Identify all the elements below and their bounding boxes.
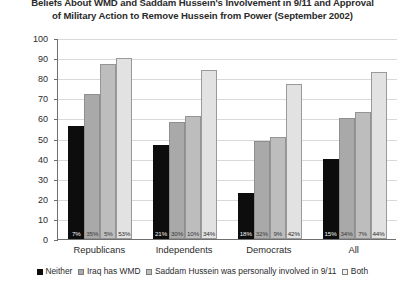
bar-republicans-series-3: 53% (116, 58, 132, 239)
bar-all-series-3: 44% (371, 72, 387, 239)
bar-value-label: 5% (101, 230, 115, 237)
y-axis-tick-label: 40 (0, 156, 48, 165)
bar-value-label: 35% (85, 230, 99, 237)
legend-swatch-icon (342, 269, 348, 275)
bar-republicans-series-1: 35% (84, 94, 100, 239)
y-axis-tick-label: 50 (0, 136, 48, 145)
bar-value-label: 18% (239, 230, 253, 237)
bar-independents-series-1: 30% (169, 122, 185, 239)
bar-independents-series-2: 10% (185, 116, 201, 239)
bar-value-label: 42% (287, 230, 301, 237)
legend-label: Saddam Hussein was personally involved i… (155, 266, 336, 276)
y-axis-tick (54, 200, 58, 201)
x-axis-category-label-democrats: Democrats (227, 244, 312, 255)
y-axis-tick-label: 10 (0, 216, 48, 225)
y-axis-tick (54, 59, 58, 60)
grid-line (58, 39, 397, 40)
chart-title: Beliefs About WMD and Saddam Hussein's I… (0, 0, 405, 22)
bar-value-label: 15% (324, 230, 338, 237)
legend-swatch-icon (146, 269, 152, 275)
bar-all-series-0: 15% (323, 159, 339, 239)
y-axis-tick (54, 39, 58, 40)
chart-title-line-1: Beliefs About WMD and Saddam Hussein's I… (0, 0, 405, 9)
bar-value-label: 30% (170, 230, 184, 237)
bar-republicans-series-0: 7% (68, 126, 84, 239)
bar-value-label: 10% (186, 230, 200, 237)
y-axis-tick (54, 220, 58, 221)
chart-title-line-2: of Military Action to Remove Hussein fro… (0, 9, 405, 22)
y-axis-tick (54, 99, 58, 100)
legend-label: Neither (45, 266, 72, 276)
chart-legend: NeitherIraq has WMDSaddam Hussein was pe… (0, 266, 405, 277)
legend-item-1[interactable]: Iraq has WMD (78, 266, 140, 277)
bar-value-label: 34% (340, 230, 354, 237)
grid-line (58, 59, 397, 60)
y-axis-tick (54, 79, 58, 80)
y-axis-tick-label: 70 (0, 95, 48, 104)
y-axis-tick-label: 60 (0, 115, 48, 124)
bar-democrats-series-3: 42% (286, 84, 302, 239)
legend-swatch-icon (37, 269, 43, 275)
bar-democrats-series-0: 18% (238, 193, 254, 239)
legend-label: Iraq has WMD (87, 266, 141, 276)
y-axis-tick-label: 30 (0, 176, 48, 185)
y-axis-tick (54, 160, 58, 161)
x-axis-category-label-independents: Independents (142, 244, 227, 255)
y-axis-tick (54, 119, 58, 120)
chart-figure: Beliefs About WMD and Saddam Hussein's I… (0, 0, 405, 286)
y-axis-tick-label: 100 (0, 35, 48, 44)
x-axis-category-label-all: All (311, 244, 396, 255)
bar-independents-series-0: 21% (153, 145, 169, 239)
y-axis-tick (54, 180, 58, 181)
bar-value-label: 44% (372, 230, 386, 237)
legend-item-3[interactable]: Both (342, 266, 368, 277)
plot-area: 7%35%5%53%21%30%10%34%18%32%9%42%15%34%7… (57, 39, 396, 240)
bar-democrats-series-2: 9% (270, 137, 286, 240)
bar-value-label: 32% (255, 230, 269, 237)
legend-item-2[interactable]: Saddam Hussein was personally involved i… (146, 266, 336, 277)
bar-democrats-series-1: 32% (254, 141, 270, 239)
y-axis-tick-label: 20 (0, 196, 48, 205)
y-axis-tick (54, 240, 58, 241)
y-axis-tick-label: 80 (0, 75, 48, 84)
bar-republicans-series-2: 5% (100, 64, 116, 239)
y-axis-tick-label: 90 (0, 55, 48, 64)
legend-swatch-icon (78, 269, 84, 275)
legend-label: Both (351, 266, 368, 276)
bar-all-series-2: 7% (355, 112, 371, 239)
bar-value-label: 53% (117, 230, 131, 237)
bar-all-series-1: 34% (339, 118, 355, 239)
legend-item-0[interactable]: Neither (37, 266, 73, 277)
bar-independents-series-3: 34% (201, 70, 217, 239)
y-axis-tick-label: 0 (0, 236, 48, 245)
bar-value-label: 21% (154, 230, 168, 237)
y-axis-tick (54, 140, 58, 141)
bar-value-label: 7% (69, 230, 83, 237)
bar-value-label: 9% (271, 230, 285, 237)
bar-value-label: 34% (202, 230, 216, 237)
bar-value-label: 7% (356, 230, 370, 237)
x-axis-category-label-republicans: Republicans (57, 244, 142, 255)
